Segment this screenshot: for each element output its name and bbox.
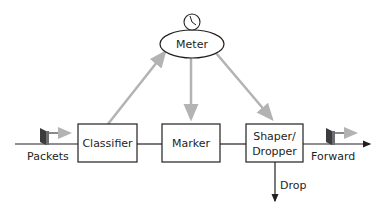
marker-node: Marker	[162, 124, 220, 162]
input-packet-icon	[40, 128, 70, 145]
clock-icon	[184, 14, 200, 30]
classifier-node: Classifier	[78, 124, 137, 162]
meter-label: Meter	[176, 38, 208, 51]
classifier-to-meter-arrow	[108, 52, 165, 124]
marker-label: Marker	[172, 137, 210, 150]
drop-label: Drop	[280, 179, 306, 192]
classifier-label: Classifier	[82, 137, 133, 150]
forward-label: Forward	[311, 150, 355, 163]
meter-to-shaper-arrow	[216, 53, 272, 119]
traffic-conditioner-diagram: Meter Classifier Marker Shaper/ Dropper …	[0, 0, 386, 214]
meter-node: Meter	[160, 30, 224, 58]
shaper-dropper-node: Shaper/ Dropper	[246, 124, 303, 162]
shaper-label: Shaper/	[253, 130, 296, 143]
packets-label: Packets	[27, 150, 69, 163]
output-packet-icon	[326, 128, 356, 145]
dropper-label: Dropper	[252, 145, 297, 158]
